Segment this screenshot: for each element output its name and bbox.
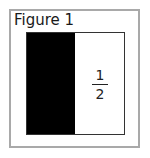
shaded-half: [27, 33, 75, 134]
fraction-numerator: 1: [92, 68, 108, 83]
unshaded-half: 1 2: [75, 33, 124, 134]
fraction-label: 1 2: [92, 68, 108, 102]
fraction-square: 1 2: [26, 32, 125, 135]
fraction-denominator: 2: [92, 87, 108, 102]
fraction-bar: [92, 84, 108, 85]
figure-title: Figure 1: [14, 11, 74, 29]
